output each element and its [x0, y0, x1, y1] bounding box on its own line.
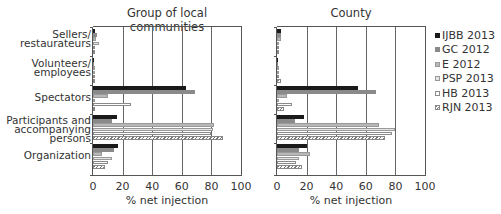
- legend-swatch-icon: [435, 91, 440, 96]
- bar: [277, 46, 279, 50]
- bar: [93, 165, 105, 169]
- bar: [277, 71, 279, 75]
- bar: [93, 123, 214, 127]
- bar: [93, 29, 95, 33]
- bar: [277, 132, 392, 136]
- bar: [93, 99, 95, 103]
- legend-item: PSP 2013: [435, 72, 495, 87]
- category-label-organization: Organization: [24, 151, 91, 160]
- bar: [93, 46, 95, 50]
- gridline: [395, 27, 396, 175]
- bar: [93, 90, 195, 94]
- bar: [93, 50, 95, 54]
- bar: [277, 42, 279, 46]
- bar: [277, 144, 307, 148]
- x-tick-label: 100: [231, 180, 252, 193]
- bar: [277, 136, 385, 140]
- x-tick-label: 20: [116, 180, 130, 193]
- legend-label: IJBB 2013: [442, 29, 495, 42]
- bar: [93, 66, 95, 70]
- category-label-line: restaurateurs: [20, 39, 91, 48]
- legend-item: IJBB 2013: [435, 28, 495, 43]
- bar: [277, 37, 281, 41]
- legend-label: GC 2012: [442, 43, 490, 56]
- bar: [93, 58, 94, 62]
- bar: [93, 62, 94, 66]
- category-label-line: Spectators: [35, 93, 91, 102]
- bar: [277, 79, 281, 83]
- bar: [277, 123, 379, 127]
- bar: [277, 157, 299, 161]
- category-label-volunteers: Volunteers/ employees: [32, 59, 91, 77]
- category-label-line: Organization: [24, 151, 91, 160]
- bar: [93, 33, 97, 37]
- bar: [277, 75, 279, 79]
- x-tick-label: 40: [329, 180, 343, 193]
- bar: [277, 66, 279, 70]
- category-label-line: persons: [6, 134, 91, 143]
- y-tick-mark: [90, 56, 93, 57]
- x-tick-label: 80: [388, 180, 402, 193]
- bar: [93, 86, 186, 90]
- bar: [277, 119, 295, 123]
- category-label-sellers: Sellers/ restaurateurs: [20, 30, 91, 48]
- bar: [93, 148, 114, 152]
- bar: [93, 94, 108, 98]
- legend-swatch-icon: [435, 62, 440, 67]
- bar: [277, 90, 376, 94]
- y-tick-mark: [90, 27, 93, 28]
- y-tick-mark: [274, 27, 277, 28]
- left-x-axis-label: % net injection: [126, 194, 208, 207]
- bar: [93, 37, 96, 41]
- x-tick-label: 40: [145, 180, 159, 193]
- y-tick-mark: [90, 175, 93, 176]
- right-panel-title: County: [277, 6, 425, 20]
- bar: [93, 128, 213, 132]
- bar: [93, 79, 95, 83]
- bar: [93, 42, 99, 46]
- bar: [93, 103, 131, 107]
- bar: [93, 161, 108, 165]
- bar: [277, 165, 302, 169]
- chart-legend: IJBB 2013GC 2012E 2012PSP 2013HB 2013RJN…: [435, 28, 495, 115]
- bar: [93, 119, 112, 123]
- category-label-line: employees: [32, 68, 91, 77]
- legend-item: E 2012: [435, 57, 495, 72]
- x-tick-label: 0: [274, 180, 281, 193]
- gridline: [211, 27, 212, 175]
- bar: [93, 152, 102, 156]
- legend-item: GC 2012: [435, 43, 495, 58]
- bar: [277, 107, 284, 111]
- legend-label: PSP 2013: [442, 72, 494, 85]
- bar: [93, 75, 95, 79]
- bar: [277, 50, 279, 54]
- gridline: [182, 27, 183, 175]
- category-label-spectators: Spectators: [35, 93, 91, 102]
- bar: [277, 86, 358, 90]
- legend-swatch-icon: [435, 33, 440, 38]
- legend-swatch-icon: [435, 76, 440, 81]
- gridline: [366, 27, 367, 175]
- gridline: [123, 27, 124, 175]
- y-tick-mark: [274, 56, 277, 57]
- x-tick-label: 60: [359, 180, 373, 193]
- legend-label: HB 2013: [442, 87, 489, 100]
- x-tick-label: 60: [175, 180, 189, 193]
- y-tick-mark: [274, 175, 277, 176]
- bar: [93, 107, 95, 111]
- bar: [277, 99, 279, 103]
- bar: [277, 128, 395, 132]
- bar: [277, 58, 278, 62]
- x-tick-label: 20: [300, 180, 314, 193]
- left-plot-area: [93, 26, 242, 176]
- bar: [277, 103, 292, 107]
- bar: [93, 132, 211, 136]
- bar: [93, 144, 118, 148]
- x-tick-label: 80: [204, 180, 218, 193]
- right-plot-area: [277, 26, 426, 176]
- bar: [277, 33, 281, 37]
- legend-swatch-icon: [435, 105, 440, 110]
- bar: [277, 94, 287, 98]
- bar: [277, 115, 304, 119]
- bar: [93, 115, 117, 119]
